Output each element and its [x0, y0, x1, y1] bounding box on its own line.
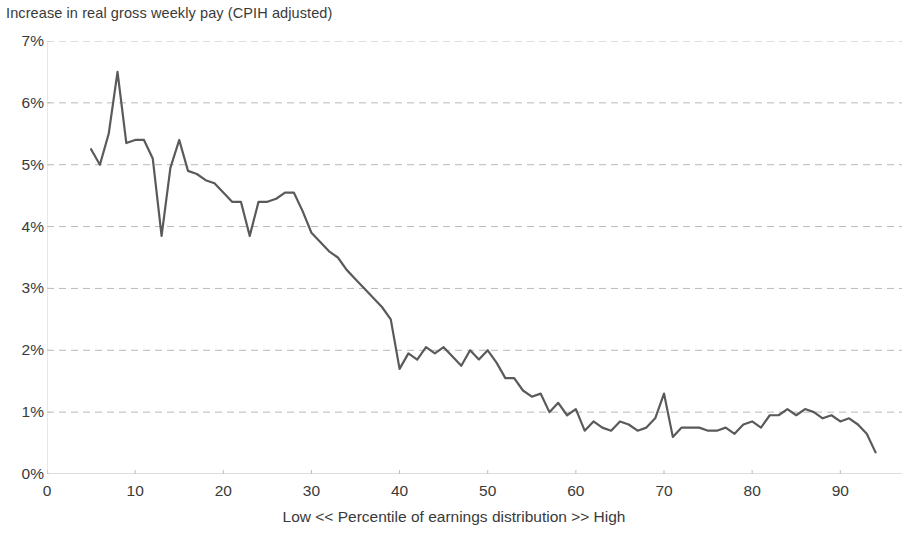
x-tick-label: 20 — [215, 482, 232, 500]
x-tick-marks — [47, 470, 840, 474]
y-axis-labels: 0%1%2%3%4%5%6%7% — [0, 0, 44, 533]
chart-title: Increase in real gross weekly pay (CPIH … — [6, 5, 332, 21]
x-tick-label: 40 — [391, 482, 408, 500]
y-tick-label: 7% — [0, 32, 44, 50]
plot-area — [47, 41, 902, 474]
y-tick-label: 0% — [0, 465, 44, 483]
y-tick-label: 3% — [0, 279, 44, 297]
pay-increase-line — [91, 72, 875, 452]
axis-lines — [47, 41, 902, 474]
y-tick-label: 5% — [0, 156, 44, 174]
y-tick-label: 1% — [0, 403, 44, 421]
y-tick-label: 6% — [0, 94, 44, 112]
x-tick-label: 50 — [479, 482, 496, 500]
x-tick-label: 0 — [43, 482, 52, 500]
x-tick-label: 70 — [655, 482, 672, 500]
x-tick-label: 60 — [567, 482, 584, 500]
chart-figure: Increase in real gross weekly pay (CPIH … — [0, 0, 908, 533]
x-tick-label: 90 — [832, 482, 849, 500]
y-tick-label: 2% — [0, 341, 44, 359]
x-axis-title: Low << Percentile of earnings distributi… — [0, 508, 908, 526]
x-tick-label: 30 — [303, 482, 320, 500]
x-tick-label: 10 — [127, 482, 144, 500]
line-chart-svg — [47, 41, 902, 474]
x-tick-label: 80 — [744, 482, 761, 500]
y-gridlines — [47, 41, 902, 474]
y-tick-label: 4% — [0, 218, 44, 236]
